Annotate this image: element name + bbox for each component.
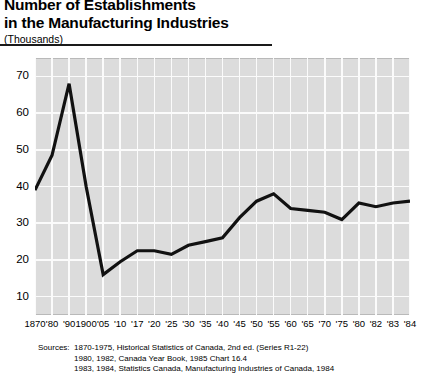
y-axis-tick: 10	[16, 291, 29, 303]
chart-figure: Number of Establishments in the Manufact…	[0, 0, 423, 376]
plot-area	[35, 58, 410, 315]
x-axis-tick: '60	[284, 318, 296, 330]
x-axis-tick: 1900	[76, 318, 97, 330]
source-line: Sources: 1870-1975, Historical Statistic…	[38, 343, 423, 354]
x-axis-tick: '80	[353, 318, 365, 330]
header-divider	[0, 44, 272, 46]
x-axis-tick: '65	[302, 318, 314, 330]
x-axis-tick: '55	[267, 318, 279, 330]
sources-label-spacer	[38, 354, 74, 365]
x-axis-tick: '80	[46, 318, 58, 330]
source-text: 1983, 1984, Statistics Canada, Manufactu…	[74, 364, 423, 375]
x-axis-tick: '35	[199, 318, 211, 330]
source-line: 1980, 1982, Canada Year Book, 1985 Chart…	[38, 354, 423, 365]
x-axis-tick: '83	[387, 318, 399, 330]
chart-title-block: Number of Establishments in the Manufact…	[4, 0, 304, 46]
x-axis-tick-labels: 1870'80'901900'05'10'17'20'25'30'35'40'4…	[35, 318, 410, 332]
y-axis-tick-labels: 10203040506070	[0, 58, 33, 315]
x-axis-tick: '70	[319, 318, 331, 330]
sources-block: Sources: 1870-1975, Historical Statistic…	[38, 343, 423, 375]
y-axis-tick: 30	[16, 217, 29, 229]
sources-label: Sources:	[38, 343, 74, 354]
y-axis-tick: 60	[16, 107, 29, 119]
page-title-line-1: Number of Establishments	[4, 0, 304, 14]
x-axis-tick: '50	[250, 318, 262, 330]
y-axis-tick: 70	[16, 71, 29, 83]
x-axis-tick: '84	[404, 318, 416, 330]
y-axis-tick: 50	[16, 144, 29, 156]
x-axis-tick: '10	[114, 318, 126, 330]
page-title-line-2: in the Manufacturing Industries	[4, 14, 304, 32]
source-text: 1870-1975, Historical Statistics of Cana…	[74, 343, 423, 354]
y-axis-tick: 40	[16, 181, 29, 193]
x-axis-tick: '05	[97, 318, 109, 330]
x-axis-tick: '30	[182, 318, 194, 330]
x-axis-tick: '82	[370, 318, 382, 330]
source-line: 1983, 1984, Statistics Canada, Manufactu…	[38, 364, 423, 375]
x-axis-tick: '75	[336, 318, 348, 330]
x-axis-tick: '17	[131, 318, 143, 330]
source-text: 1980, 1982, Canada Year Book, 1985 Chart…	[74, 354, 423, 365]
x-axis-tick: '45	[233, 318, 245, 330]
data-series-line	[35, 58, 410, 315]
x-axis-tick: '25	[165, 318, 177, 330]
x-axis-tick: '40	[216, 318, 228, 330]
x-axis-tick: 1870	[24, 318, 45, 330]
x-axis-tick: '20	[148, 318, 160, 330]
sources-label-spacer	[38, 364, 74, 375]
x-axis-tick: '90	[63, 318, 75, 330]
y-axis-tick: 20	[16, 254, 29, 266]
